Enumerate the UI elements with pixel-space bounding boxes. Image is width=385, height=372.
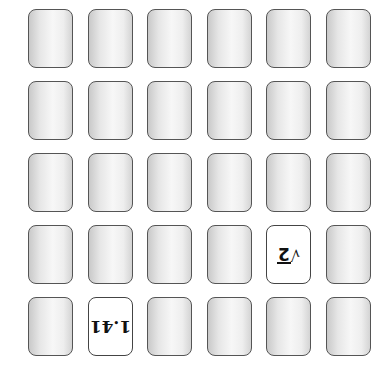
card-r1-c3[interactable] (207, 81, 252, 140)
card-r3-c4-sqrt2[interactable]: √2 (266, 225, 311, 284)
card-r4-c2[interactable] (147, 297, 192, 356)
card-label-1-41: 1.41 (89, 298, 132, 355)
card-label-sqrt2: √2 (267, 226, 310, 283)
card-r2-c3[interactable] (207, 153, 252, 212)
card-r4-c1-decimal[interactable]: 1.41 (88, 297, 133, 356)
card-r0-c2[interactable] (147, 9, 192, 68)
card-r0-c5[interactable] (326, 9, 371, 68)
card-r3-c0[interactable] (28, 225, 73, 284)
card-r0-c4[interactable] (266, 9, 311, 68)
card-r2-c4[interactable] (266, 153, 311, 212)
card-r1-c5[interactable] (326, 81, 371, 140)
card-r1-c2[interactable] (147, 81, 192, 140)
card-r4-c0[interactable] (28, 297, 73, 356)
sqrt-sign: √ (291, 247, 301, 262)
card-r0-c3[interactable] (207, 9, 252, 68)
card-r0-c1[interactable] (88, 9, 133, 68)
card-r0-c0[interactable] (28, 9, 73, 68)
card-r1-c0[interactable] (28, 81, 73, 140)
card-r1-c4[interactable] (266, 81, 311, 140)
card-r3-c2[interactable] (147, 225, 192, 284)
card-r3-c1[interactable] (88, 225, 133, 284)
memory-card-board: √2 1.41 (0, 0, 385, 372)
card-r4-c4[interactable] (266, 297, 311, 356)
card-r3-c3[interactable] (207, 225, 252, 284)
card-r4-c3[interactable] (207, 297, 252, 356)
card-r4-c5[interactable] (326, 297, 371, 356)
card-r2-c0[interactable] (28, 153, 73, 212)
card-r2-c5[interactable] (326, 153, 371, 212)
card-r1-c1[interactable] (88, 81, 133, 140)
radicand: 2 (277, 245, 291, 264)
card-r2-c1[interactable] (88, 153, 133, 212)
card-r3-c5[interactable] (326, 225, 371, 284)
card-r2-c2[interactable] (147, 153, 192, 212)
